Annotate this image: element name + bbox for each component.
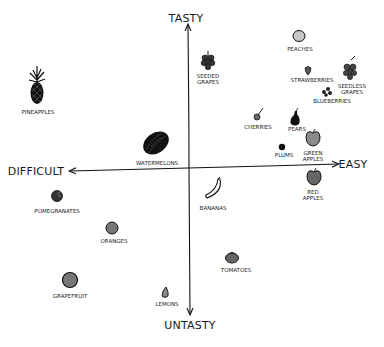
label-cherries: CHERRIES <box>244 124 272 130</box>
watermelon-icon <box>139 127 173 159</box>
grapes-icon <box>343 56 356 80</box>
label-grapefruit: GRAPEFRUIT <box>53 293 87 299</box>
x-axis <box>70 164 338 171</box>
apple-icon <box>306 129 320 146</box>
axis-label-difficult: DIFFICULT <box>8 165 64 178</box>
blueberry-icon <box>322 87 332 97</box>
label-strawberries: STRAWBERRIES <box>291 77 334 83</box>
lemon-icon <box>162 287 168 298</box>
cherry-icon <box>254 108 263 120</box>
pear-icon <box>290 108 299 126</box>
label-tomatoes: TOMATOES <box>221 267 251 273</box>
label-seedless-grapes: SEEDLESS GRAPES <box>338 83 366 95</box>
tomato-icon <box>226 252 239 263</box>
label-watermelons: WATERMELONS <box>136 160 178 166</box>
label-oranges: ORANGES <box>100 238 127 244</box>
fruit-chart: TASTY UNTASTY DIFFICULT EASY PINEAPPLES … <box>0 0 384 347</box>
label-red-apples: RED APPLES <box>303 189 323 201</box>
label-plums: PLUMS <box>275 152 293 158</box>
label-bananas: BANANAS <box>200 205 227 211</box>
label-pears: PEARS <box>288 126 306 132</box>
label-seeded-grapes: SEEDED GRAPES <box>197 73 219 85</box>
axis-label-tasty: TASTY <box>169 12 204 25</box>
label-pomegranates: POMEGRANATES <box>34 208 79 214</box>
label-blueberries: BLUEBERRIES <box>313 98 351 104</box>
y-axis <box>188 25 190 314</box>
apple-icon <box>307 168 321 185</box>
grapefruit-icon <box>63 273 78 288</box>
grapes-icon <box>201 51 215 70</box>
label-green-apples: GREEN APPLES <box>303 150 323 162</box>
axis-label-easy: EASY <box>339 158 368 171</box>
pomegranate-icon <box>52 191 63 202</box>
label-pineapples: PINEAPPLES <box>22 109 55 115</box>
axis-label-untasty: UNTASTY <box>164 319 216 332</box>
plum-icon <box>279 144 285 150</box>
banana-icon <box>206 177 221 198</box>
strawberry-icon <box>305 67 311 76</box>
pineapple-icon <box>29 66 45 104</box>
label-lemons: LEMONS <box>155 301 178 307</box>
label-peaches: PEACHES <box>287 46 312 52</box>
orange-icon <box>106 222 118 234</box>
peach-icon <box>293 31 305 42</box>
